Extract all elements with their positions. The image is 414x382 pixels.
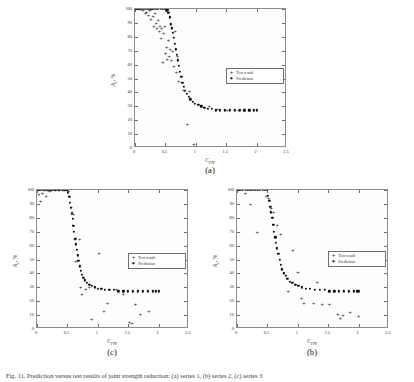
y-tick-label: 70 bbox=[223, 228, 234, 233]
test-result-point bbox=[327, 302, 331, 306]
y-tick-label: 20 bbox=[23, 298, 34, 303]
y-tick-label: 0 bbox=[121, 145, 132, 150]
x-axis-title-a: CFIV bbox=[205, 157, 215, 165]
prediction-point bbox=[179, 70, 181, 72]
y-tick-label: 20 bbox=[121, 117, 132, 122]
dot-marker-icon: ● bbox=[331, 259, 336, 264]
y-tick bbox=[384, 246, 387, 247]
prediction-point bbox=[77, 260, 79, 262]
test-result-point bbox=[356, 314, 360, 318]
y-tick-label: 80 bbox=[121, 33, 132, 38]
prediction-point bbox=[176, 59, 178, 61]
x-tick bbox=[298, 190, 299, 193]
y-tick-label: 90 bbox=[121, 19, 132, 24]
dot-marker-icon: ● bbox=[229, 76, 234, 81]
test-result-point bbox=[311, 300, 315, 304]
x-tick-label: 1 bbox=[296, 330, 298, 335]
prediction-point bbox=[309, 288, 311, 290]
x-tick-label: 1 bbox=[96, 330, 98, 335]
prediction-point bbox=[72, 218, 74, 220]
x-tick-label: 0 bbox=[235, 330, 237, 335]
panel-a: 00.511.522.50102030405060708090100 CFIV … bbox=[110, 2, 310, 177]
x-tick bbox=[359, 324, 360, 327]
y-tick bbox=[237, 204, 240, 205]
y-tick bbox=[237, 301, 240, 302]
prediction-point bbox=[305, 288, 307, 290]
y-tick bbox=[184, 315, 187, 316]
prediction-point bbox=[137, 290, 139, 292]
prediction-point bbox=[75, 249, 77, 251]
x-tick bbox=[298, 324, 299, 327]
prediction-point bbox=[277, 253, 279, 255]
y-tick-label: 80 bbox=[23, 214, 34, 219]
prediction-point bbox=[175, 48, 177, 50]
prediction-point bbox=[80, 269, 82, 271]
x-tick bbox=[267, 324, 268, 327]
x-tick bbox=[128, 190, 129, 193]
prediction-point bbox=[319, 289, 321, 291]
y-tick-label: 100 bbox=[223, 187, 234, 192]
test-result-point bbox=[243, 191, 247, 195]
y-tick-label: 30 bbox=[23, 284, 34, 289]
y-tick bbox=[184, 190, 187, 191]
y-tick bbox=[184, 301, 187, 302]
x-tick bbox=[159, 324, 160, 327]
y-tick-label: 20 bbox=[223, 298, 234, 303]
prediction-point bbox=[301, 286, 303, 288]
y-tick-label: 30 bbox=[121, 103, 132, 108]
y-tick bbox=[135, 134, 138, 135]
y-tick-label: 60 bbox=[121, 61, 132, 66]
y-tick bbox=[384, 287, 387, 288]
test-result-point bbox=[248, 202, 252, 206]
y-tick-label: 10 bbox=[23, 312, 34, 317]
prediction-point bbox=[343, 290, 345, 292]
test-result-point bbox=[147, 309, 151, 313]
y-tick bbox=[282, 51, 285, 52]
prediction-point bbox=[207, 108, 209, 110]
prediction-point bbox=[91, 285, 93, 287]
y-tick bbox=[135, 79, 138, 80]
y-tick-label: 30 bbox=[223, 284, 234, 289]
prediction-point bbox=[180, 76, 182, 78]
prediction-point bbox=[168, 16, 170, 18]
x-tick-label: 2 bbox=[254, 149, 256, 154]
x-axis-title-c: CFIV bbox=[107, 338, 117, 346]
prediction-point bbox=[73, 231, 75, 233]
test-result-point bbox=[38, 199, 42, 203]
y-tick bbox=[237, 315, 240, 316]
prediction-point bbox=[132, 290, 134, 292]
test-result-point bbox=[192, 142, 196, 146]
test-result-point bbox=[291, 248, 295, 252]
y-tick-label: 80 bbox=[223, 214, 234, 219]
prediction-point bbox=[178, 65, 180, 67]
prediction-point bbox=[200, 105, 202, 107]
prediction-point bbox=[338, 290, 340, 292]
y-tick bbox=[135, 92, 138, 93]
y-axis-title-c: Ac, % bbox=[12, 255, 20, 267]
y-tick-label: 50 bbox=[121, 75, 132, 80]
y-tick bbox=[135, 65, 138, 66]
x-tick bbox=[67, 324, 68, 327]
test-result-point bbox=[79, 285, 83, 289]
y-tick bbox=[135, 23, 138, 24]
x-tick bbox=[135, 143, 136, 146]
x-tick-label: 2.5 bbox=[185, 330, 191, 335]
subplot-caption-b: (b) bbox=[307, 347, 317, 357]
y-tick-label: 100 bbox=[23, 187, 34, 192]
test-result-point bbox=[77, 236, 81, 240]
y-tick-label: 10 bbox=[223, 312, 234, 317]
y-tick bbox=[37, 232, 40, 233]
prediction-point bbox=[174, 43, 176, 45]
prediction-point bbox=[108, 289, 110, 291]
x-tick bbox=[159, 190, 160, 193]
y-tick bbox=[184, 218, 187, 219]
test-result-point bbox=[279, 232, 283, 236]
prediction-point bbox=[353, 290, 355, 292]
test-result-point bbox=[121, 292, 125, 296]
y-tick bbox=[37, 204, 40, 205]
y-tick-label: 60 bbox=[23, 242, 34, 247]
x-tick bbox=[359, 190, 360, 193]
prediction-point bbox=[194, 102, 196, 104]
y-tick bbox=[135, 37, 138, 38]
y-tick bbox=[384, 218, 387, 219]
